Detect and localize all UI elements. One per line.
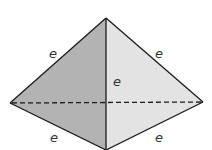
label-center: e [113,74,121,89]
label-lower-right: e [155,130,163,145]
label-lower-left: e [50,130,58,145]
tetrahedron-diagram: e e e e e [0,0,212,150]
left-face [10,18,106,150]
label-upper-left: e [49,46,57,61]
label-upper-right: e [155,46,163,61]
